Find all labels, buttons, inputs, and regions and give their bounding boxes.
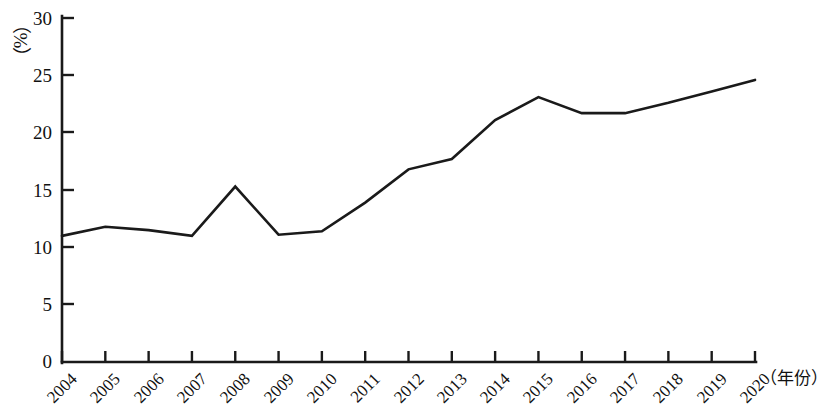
x-axis-unit-label: （年份）	[760, 370, 828, 387]
x-tick-label: 2016	[559, 370, 599, 410]
x-tick-label: 2019	[689, 370, 729, 410]
x-tick-label: 2004	[40, 370, 80, 410]
x-tick-label: 2005	[83, 370, 123, 410]
x-tick-label: 2012	[386, 370, 426, 410]
x-axis-tick-labels: 2004200520062007200820092010201120122013…	[0, 0, 829, 410]
x-tick-label: 2017	[603, 370, 643, 410]
x-tick-label: 2010	[300, 370, 340, 410]
x-tick-label: 2015	[516, 370, 556, 410]
line-chart: （%） 30 25 20 15 10 5 0 20042005200620072…	[0, 0, 829, 410]
x-tick-label: 2006	[126, 370, 166, 410]
x-tick-label: 2008	[213, 370, 253, 410]
x-tick-label: 2013	[430, 370, 470, 410]
x-tick-label: 2011	[343, 370, 383, 410]
x-tick-label: 2007	[170, 370, 210, 410]
x-tick-label: 2018	[646, 370, 686, 410]
x-tick-label: 2014	[473, 370, 513, 410]
x-tick-label: 2009	[256, 370, 296, 410]
